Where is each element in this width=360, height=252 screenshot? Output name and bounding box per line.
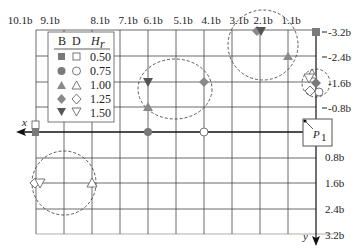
marker-diamond-filled [199, 77, 209, 87]
svg-text:9.1b: 9.1b [40, 14, 60, 26]
svg-text:1: 1 [321, 131, 327, 143]
svg-text:10.1b: 10.1b [8, 14, 33, 26]
marker-diamond-filled [311, 78, 321, 88]
svg-text:0.50: 0.50 [90, 50, 111, 64]
marker-square-filled [312, 28, 320, 36]
marker-circle-filled [144, 128, 152, 136]
x-axis-label: x [21, 116, 27, 128]
svg-text:-1.6b: -1.6b [328, 77, 351, 89]
marker-triangle-down-filled [143, 78, 153, 87]
svg-text:-0.8b: -0.8b [328, 102, 351, 114]
svg-text:1.25: 1.25 [90, 92, 111, 106]
marker-diamond-open [305, 86, 315, 96]
svg-text:B: B [58, 34, 66, 48]
y-axis-label: y [302, 230, 308, 242]
svg-text:2.1b: 2.1b [253, 14, 273, 26]
marker-square-open [32, 121, 39, 129]
svg-text:-3.2b: -3.2b [328, 26, 351, 38]
svg-text:D: D [72, 34, 81, 48]
svg-text:0.8b: 0.8b [325, 151, 345, 163]
svg-text:8.1b: 8.1b [90, 14, 110, 26]
marker-circle-open [200, 128, 208, 136]
svg-text:3.1b: 3.1b [229, 14, 249, 26]
marker-circle-open [315, 88, 323, 96]
svg-text:1.50: 1.50 [90, 106, 111, 120]
svg-text:1.00: 1.00 [90, 78, 111, 92]
svg-text:1.6b: 1.6b [325, 177, 345, 189]
svg-text:3.2b: 3.2b [325, 229, 345, 241]
svg-text:0.75: 0.75 [90, 64, 111, 78]
origin-box-p1: P 1 [303, 119, 332, 146]
svg-text:P: P [312, 128, 320, 140]
marker-square-filled [32, 128, 39, 136]
x-tick-labels: 10.1b 9.1b 8.1b 7.1b 6.1b 5.1b 4.1b 3.1b… [8, 14, 302, 26]
svg-text:5.1b: 5.1b [173, 14, 193, 26]
legend: B D H r 0.50 0.75 1.00 1.25 1.50 [48, 32, 114, 122]
chart-canvas: x y 10.1b 9.1b 8.1b 7.1b 6.1b 5.1b 4.1b … [0, 0, 360, 252]
svg-text:6.1b: 6.1b [143, 14, 163, 26]
svg-text:4.1b: 4.1b [201, 14, 221, 26]
svg-text:2.4b: 2.4b [325, 203, 345, 215]
svg-text:-2.4b: -2.4b [328, 51, 351, 63]
svg-text:7.1b: 7.1b [118, 14, 138, 26]
